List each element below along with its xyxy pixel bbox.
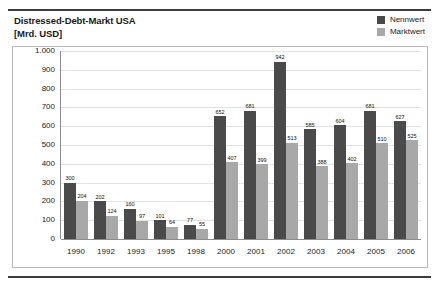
bar-group: 681510: [361, 51, 391, 239]
plot-frame: 1.0009008007006005004003002001000 300204…: [12, 46, 428, 268]
bar-group: 585388: [301, 51, 331, 239]
bar-group: 16097: [121, 51, 151, 239]
y-axis-tick-label: 0: [51, 235, 55, 243]
bar-group: 627525: [391, 51, 421, 239]
legend-swatch-marktwert: [377, 28, 385, 36]
x-axis-tick-label: 1995: [151, 239, 181, 267]
x-axis-tick-label: 2005: [361, 239, 391, 267]
bar-nennwert-1992[interactable]: 202: [94, 201, 106, 239]
bar-marktwert-2005[interactable]: 510: [376, 143, 388, 239]
bar-value-label: 388: [317, 159, 326, 165]
bar-slot: 388: [316, 51, 328, 239]
bar-slot: 124: [106, 51, 118, 239]
bar-nennwert-2004[interactable]: 604: [334, 125, 346, 239]
bar-group: 202124: [91, 51, 121, 239]
bar-nennwert-2003[interactable]: 585: [304, 129, 316, 239]
x-axis-tick-label: 1992: [91, 239, 121, 267]
bar-group: 681399: [241, 51, 271, 239]
bar-value-label: 585: [305, 122, 314, 128]
bar-nennwert-1995[interactable]: 101: [154, 220, 166, 239]
y-axis-tick-label: 800: [42, 85, 55, 93]
bar-marktwert-2000[interactable]: 407: [226, 162, 238, 239]
y-axis-tick-label: 500: [42, 141, 55, 149]
bar-group: 300204: [61, 51, 91, 239]
chart-title: Distressed-Debt-Markt USA [Mrd. USD]: [14, 15, 136, 40]
bar-value-label: 942: [275, 54, 284, 60]
bar-slot: 101: [154, 51, 166, 239]
x-axis-tick-label: 1998: [181, 239, 211, 267]
bar-group: 604402: [331, 51, 361, 239]
legend-item-nennwert: Nennwert: [377, 15, 425, 24]
x-axis-tick-label: 2006: [391, 239, 421, 267]
bar-slot: 525: [406, 51, 418, 239]
bar-slot: 510: [376, 51, 388, 239]
y-axis-tick-label: 400: [42, 160, 55, 168]
bar-value-label: 525: [407, 133, 416, 139]
bar-slot: 627: [394, 51, 406, 239]
bar-slot: 402: [346, 51, 358, 239]
legend-label-nennwert: Nennwert: [390, 15, 424, 24]
bar-nennwert-2005[interactable]: 681: [364, 111, 376, 239]
bar-slot: 399: [256, 51, 268, 239]
bar-marktwert-2001[interactable]: 399: [256, 164, 268, 239]
bar-value-label: 202: [95, 194, 104, 200]
bar-marktwert-1993[interactable]: 97: [136, 221, 148, 239]
bar-value-label: 399: [257, 157, 266, 163]
bar-nennwert-1990[interactable]: 300: [64, 183, 76, 239]
bar-marktwert-1990[interactable]: 204: [76, 201, 88, 239]
bar-value-label: 77: [187, 217, 193, 223]
bar-value-label: 97: [139, 213, 145, 219]
x-axis-tick-label: 1990: [61, 239, 91, 267]
bar-value-label: 513: [287, 135, 296, 141]
bar-slot: 160: [124, 51, 136, 239]
bar-nennwert-2006[interactable]: 627: [394, 121, 406, 239]
bar-value-label: 300: [65, 175, 74, 181]
bar-slot: 942: [274, 51, 286, 239]
bar-slot: 681: [364, 51, 376, 239]
bar-nennwert-1998[interactable]: 77: [184, 225, 196, 239]
y-axis-tick-label: 700: [42, 103, 55, 111]
bar-group: 942513: [271, 51, 301, 239]
bar-group: 652407: [211, 51, 241, 239]
chart-legend: Nennwert Marktwert: [377, 15, 425, 36]
bar-slot: 97: [136, 51, 148, 239]
bar-marktwert-2002[interactable]: 513: [286, 143, 298, 239]
bar-value-label: 204: [77, 193, 86, 199]
y-axis-tick-label: 300: [42, 179, 55, 187]
bar-value-label: 55: [199, 221, 205, 227]
bar-value-label: 402: [347, 156, 356, 162]
bar-groups: 3002042021241609710164775565240768139994…: [61, 51, 421, 239]
plot-area: 3002042021241609710164775565240768139994…: [61, 51, 421, 239]
x-axis-tick-label: 2001: [241, 239, 271, 267]
y-axis-tick-label: 900: [42, 66, 55, 74]
y-axis-tick-label: 600: [42, 122, 55, 130]
bar-nennwert-1993[interactable]: 160: [124, 209, 136, 239]
bottom-divider-rule: [8, 276, 431, 278]
legend-label-marktwert: Marktwert: [390, 27, 425, 36]
bar-marktwert-2004[interactable]: 402: [346, 163, 358, 239]
bar-marktwert-2003[interactable]: 388: [316, 166, 328, 239]
x-axis: 1990199219931995199820002001200220032004…: [61, 239, 421, 267]
bar-value-label: 627: [395, 114, 404, 120]
bar-value-label: 604: [335, 118, 344, 124]
top-divider-rule: [8, 9, 431, 11]
bar-marktwert-1992[interactable]: 124: [106, 216, 118, 239]
bar-value-label: 407: [227, 155, 236, 161]
bar-slot: 300: [64, 51, 76, 239]
bar-marktwert-1995[interactable]: 64: [166, 227, 178, 239]
bar-slot: 77: [184, 51, 196, 239]
bar-nennwert-2002[interactable]: 942: [274, 62, 286, 239]
bar-value-label: 64: [169, 219, 175, 225]
bar-slot: 202: [94, 51, 106, 239]
bar-value-label: 510: [377, 136, 386, 142]
legend-swatch-nennwert: [377, 16, 385, 24]
bar-group: 7755: [181, 51, 211, 239]
bar-nennwert-2000[interactable]: 652: [214, 116, 226, 239]
x-axis-tick-label: 2004: [331, 239, 361, 267]
bar-marktwert-2006[interactable]: 525: [406, 140, 418, 239]
bar-nennwert-2001[interactable]: 681: [244, 111, 256, 239]
bar-value-label: 652: [215, 109, 224, 115]
bar-slot: 55: [196, 51, 208, 239]
bar-marktwert-1998[interactable]: 55: [196, 229, 208, 239]
x-axis-tick-label: 2003: [301, 239, 331, 267]
